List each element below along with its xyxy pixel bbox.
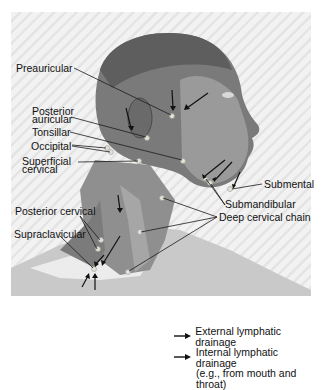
- label-occipital: Occipital: [31, 141, 71, 151]
- leader-submental: [232, 184, 262, 189]
- leader-submandibular-2: [211, 184, 225, 205]
- label-submandibular: Submandibular: [225, 199, 296, 209]
- legend-item-internal: Internal lymphatic drainage: [172, 347, 321, 368]
- label-tonsillar: Tonsillar: [32, 127, 71, 137]
- legend: External lymphatic drainage Internal lym…: [172, 326, 321, 389]
- label-posterior-cervical: Posterior cervical: [15, 206, 96, 216]
- legend-label-external: External lymphatic drainage: [195, 326, 321, 347]
- label-superficial-cervical-line2: cervical: [22, 164, 58, 174]
- node-posterior-cervical-1: [99, 238, 104, 243]
- eye: [222, 92, 234, 98]
- node-tonsillar: [181, 159, 186, 164]
- label-submental: Submental: [264, 179, 314, 189]
- arrow-right-icon: [172, 352, 196, 363]
- label-deep-cervical-chain: Deep cervical chain: [219, 212, 311, 222]
- legend-sublabel-internal: (e.g., from mouth and throat): [172, 368, 321, 389]
- label-supraclavicular: Supraclavicular: [14, 229, 86, 239]
- legend-label-internal: Internal lymphatic drainage: [196, 347, 321, 368]
- legend-item-external: External lymphatic drainage: [172, 326, 321, 347]
- label-preauricular: Preauricular: [16, 63, 73, 73]
- node-submental: [228, 187, 233, 192]
- node-posterior-auricular: [145, 136, 150, 141]
- arrow-right-icon: [172, 331, 195, 342]
- leader-superficial-cervical: [78, 161, 138, 162]
- label-posterior-auricular-line2: auricular: [32, 114, 72, 124]
